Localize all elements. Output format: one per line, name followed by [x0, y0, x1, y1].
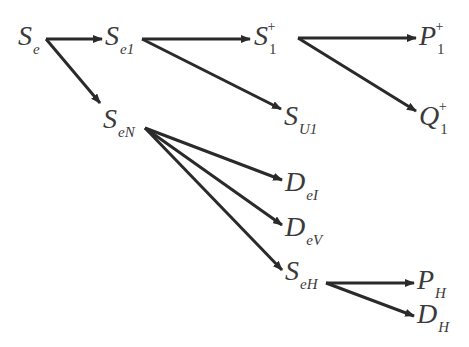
node-DeI: DeI: [285, 168, 318, 209]
node-SU1: SU1: [284, 102, 317, 143]
arrow-SeN-to-SeH: [145, 128, 282, 270]
node-subscript: eH: [300, 276, 318, 292]
node-subscript: e1: [120, 41, 134, 57]
node-subscript: U1: [299, 121, 317, 137]
node-SeN: SeN: [103, 105, 135, 146]
node-symbol: D: [285, 211, 305, 242]
node-symbol: D: [417, 298, 437, 329]
node-SeH: SeH: [285, 257, 318, 298]
arrow-SeH-to-DH: [326, 283, 414, 316]
node-subscript: 1: [440, 121, 448, 137]
node-subscript: eV: [306, 232, 322, 248]
node-symbol: P: [417, 264, 434, 295]
node-symbol: S: [105, 20, 119, 51]
node-subscript: e: [33, 41, 40, 57]
node-Se1: Se1: [105, 22, 134, 63]
node-superscript: +: [439, 93, 447, 121]
arrow-Se-to-SeN: [46, 39, 100, 103]
node-subscript: eN: [118, 124, 135, 140]
arrow-SeN-to-DeV: [145, 128, 282, 225]
arrow-S1p-to-Q1p: [298, 38, 416, 111]
node-DeV: DeV: [285, 213, 322, 254]
node-symbol: S: [103, 103, 117, 134]
node-Se: Se: [18, 22, 40, 63]
node-symbol: P: [419, 20, 436, 51]
node-symbol: S: [284, 100, 298, 131]
node-superscript: +: [436, 13, 444, 41]
node-P1p: P1+: [419, 22, 444, 63]
node-symbol: S: [18, 20, 32, 51]
node-symbol: S: [285, 255, 299, 286]
node-DH: DH: [417, 300, 449, 341]
node-symbol: Q: [419, 100, 439, 131]
node-subscript: 1: [437, 41, 445, 57]
node-subscript: eI: [306, 187, 318, 203]
arrow-SeN-to-DeI: [145, 128, 282, 180]
arrow-group: [46, 38, 416, 316]
node-symbol: D: [285, 166, 305, 197]
node-subscript: 1: [269, 41, 277, 57]
node-superscript: +: [268, 13, 276, 41]
node-S1p: S1+: [254, 22, 275, 63]
node-subscript: H: [438, 319, 449, 335]
node-Q1p: Q1+: [419, 102, 447, 143]
edges-layer: [0, 0, 469, 347]
node-symbol: S: [254, 20, 268, 51]
